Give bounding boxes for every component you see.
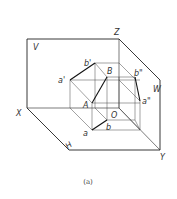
projection-diagram: V H W X Y Z O A B a b a' b' a" b" (a) <box>0 0 177 199</box>
label-point-b-prime: b' <box>84 59 91 68</box>
line-AB <box>92 77 107 103</box>
label-w-plane: W <box>153 85 162 94</box>
label-point-a-prime: a' <box>58 76 65 85</box>
label-h-plane: H <box>64 140 74 151</box>
line-ab <box>92 120 107 130</box>
label-point-B: B <box>107 67 113 76</box>
label-point-a-double-prime: a" <box>142 97 151 106</box>
label-z-axis: Z <box>113 28 120 37</box>
figure-caption: (a) <box>83 178 93 186</box>
w-plane-outline <box>119 39 160 150</box>
v-plane-outline <box>27 39 119 108</box>
label-v-plane: V <box>33 43 39 52</box>
label-point-a: a <box>83 129 88 138</box>
line-a2-b2 <box>135 77 140 101</box>
label-point-b-double-prime: b" <box>134 69 143 78</box>
label-point-b: b <box>106 123 111 132</box>
label-y-axis: Y <box>160 153 166 162</box>
label-origin: O <box>111 111 117 120</box>
label-point-A: A <box>82 101 88 110</box>
label-x-axis: X <box>15 109 22 118</box>
